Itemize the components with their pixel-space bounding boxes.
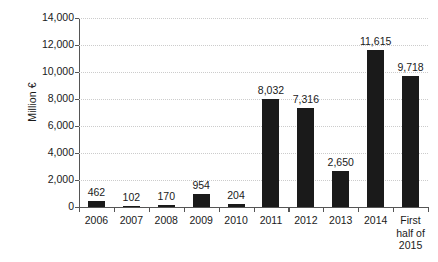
bar [402, 76, 419, 207]
bar [297, 108, 314, 207]
x-axis-tick-label-line: 2010 [224, 214, 247, 227]
bar-value-label: 102 [123, 191, 141, 203]
x-axis-tick [219, 207, 220, 212]
x-axis-tick-label: 2009 [189, 214, 212, 227]
bar [332, 171, 349, 207]
bar [228, 204, 245, 207]
y-axis-tick-label: 6,000 [12, 119, 74, 131]
x-axis-tick [149, 207, 150, 212]
y-axis-tick [75, 45, 79, 46]
x-axis-tick-label: 2011 [260, 214, 283, 227]
bar-chart: Million € 02,0004,0006,0008,00010,00012,… [0, 0, 438, 262]
bar [262, 99, 279, 207]
x-axis-tick [288, 207, 289, 212]
x-axis-tick-label-line: half of [396, 227, 425, 240]
y-axis-tick [75, 153, 79, 154]
x-axis-tick-label-line: 2009 [189, 214, 212, 227]
x-axis-tick [358, 207, 359, 212]
plot-area: 4621021709542048,0327,3162,65011,6159,71… [79, 18, 428, 207]
bar-value-label: 9,718 [397, 61, 423, 73]
bar-value-label: 7,316 [293, 93, 319, 105]
x-axis-tick-label-line: 2015 [396, 239, 425, 252]
y-axis-tick [75, 18, 79, 19]
x-axis-tick-label-line: 2006 [85, 214, 108, 227]
x-axis-tick-label-line: 2011 [260, 214, 283, 227]
y-axis-tick-label: 14,000 [12, 11, 74, 23]
y-axis-tick-label: 10,000 [12, 65, 74, 77]
x-axis-tick-label: 2010 [224, 214, 247, 227]
x-axis-tick [184, 207, 185, 212]
x-axis-tick-label-line: 2012 [294, 214, 317, 227]
x-axis-tick-label: 2006 [85, 214, 108, 227]
y-axis-tick [75, 126, 79, 127]
x-axis-tick-label-line: First [396, 214, 425, 227]
y-axis-tick [75, 180, 79, 181]
x-axis-tick-label: Firsthalf of2015 [396, 214, 425, 252]
y-axis-tick [75, 99, 79, 100]
y-axis-tick-label: 0 [12, 200, 74, 212]
x-axis-tick [323, 207, 324, 212]
x-axis-tick-label-line: 2008 [155, 214, 178, 227]
bar-value-label: 204 [227, 189, 245, 201]
bar [193, 194, 210, 207]
bar-value-label: 170 [157, 190, 175, 202]
x-axis-tick-label: 2014 [364, 214, 387, 227]
y-axis-tick-label: 4,000 [12, 146, 74, 158]
x-axis-tick-label-line: 2013 [329, 214, 352, 227]
bar-value-label: 462 [88, 186, 106, 198]
bar-value-label: 11,615 [360, 35, 391, 47]
bar [123, 206, 140, 208]
x-axis-tick-label: 2013 [329, 214, 352, 227]
x-axis-tick [393, 207, 394, 212]
bar-value-label: 8,032 [258, 84, 284, 96]
bar [367, 50, 384, 207]
y-axis-tick [75, 72, 79, 73]
x-axis-tick-label: 2012 [294, 214, 317, 227]
x-axis-tick [254, 207, 255, 212]
gridline [79, 18, 428, 19]
x-axis-tick-label-line: 2007 [120, 214, 143, 227]
y-axis-tick-label: 8,000 [12, 92, 74, 104]
x-axis-tick-label-line: 2014 [364, 214, 387, 227]
y-axis-tick-label: 2,000 [12, 173, 74, 185]
x-axis-tick [428, 207, 429, 212]
y-axis-tick-label: 12,000 [12, 38, 74, 50]
x-axis-tick-label: 2008 [155, 214, 178, 227]
bar [88, 201, 105, 207]
bar [158, 205, 175, 207]
x-axis-tick-label: 2007 [120, 214, 143, 227]
x-axis-tick [114, 207, 115, 212]
x-axis-tick [79, 207, 80, 212]
bar-value-label: 2,650 [328, 156, 354, 168]
bar-value-label: 954 [192, 179, 210, 191]
